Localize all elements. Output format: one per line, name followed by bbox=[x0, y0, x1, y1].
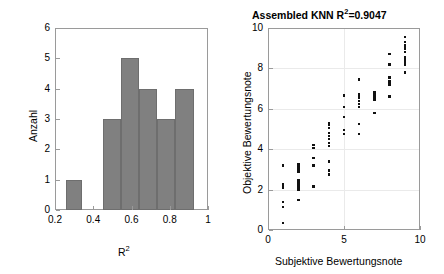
histogram-x-tick bbox=[208, 206, 209, 210]
histogram-x-tick-label: 0.4 bbox=[78, 215, 108, 225]
scatter-point bbox=[312, 164, 314, 166]
scatter-y-tick bbox=[269, 149, 273, 150]
scatter-y-tick-label: 10 bbox=[242, 23, 263, 33]
scatter-point bbox=[358, 93, 360, 95]
scatter-point bbox=[312, 185, 314, 187]
scatter-point bbox=[404, 56, 406, 58]
scatter-point bbox=[358, 100, 360, 102]
scatter-point bbox=[388, 83, 390, 85]
histogram-bar bbox=[121, 58, 139, 210]
histogram-x-tick-label: 0.6 bbox=[117, 215, 147, 225]
histogram-y-tick-label: 1 bbox=[31, 175, 50, 185]
histogram-bar bbox=[103, 119, 121, 210]
matlab-figure: 0.20.40.60.81 0123456 Anzahl R2 Assemble… bbox=[0, 0, 444, 274]
histogram-x-tick-label: 0.2 bbox=[40, 215, 70, 225]
scatter-point bbox=[312, 144, 314, 146]
histogram-bar bbox=[175, 89, 193, 210]
histogram-y-tick bbox=[56, 58, 60, 59]
scatter-y-tick bbox=[269, 230, 273, 231]
scatter-point bbox=[358, 123, 360, 125]
scatter-point bbox=[388, 95, 390, 97]
scatter-x-tick bbox=[344, 226, 345, 230]
histogram-y-tick bbox=[56, 149, 60, 150]
scatter-point bbox=[328, 169, 330, 171]
histogram-y-tick-label: 6 bbox=[31, 23, 50, 33]
histogram-y-axis-label: Anzahl bbox=[28, 110, 39, 142]
histogram-panel: 0.20.40.60.81 0123456 Anzahl R2 bbox=[0, 0, 222, 274]
histogram-x-axis-label-exponent: 2 bbox=[126, 244, 130, 253]
scatter-point bbox=[388, 53, 390, 55]
histogram-y-tick-label: 4 bbox=[31, 84, 50, 94]
scatter-point bbox=[282, 201, 284, 203]
scatter-point bbox=[297, 166, 299, 168]
scatter-point bbox=[404, 51, 406, 53]
histogram-x-axis-label-base: R bbox=[118, 246, 126, 258]
scatter-point bbox=[282, 222, 284, 224]
scatter-point bbox=[328, 127, 330, 129]
scatter-title-prefix: Assembled KNN R bbox=[252, 9, 344, 21]
scatter-x-tick-label: 5 bbox=[329, 235, 359, 245]
scatter-point bbox=[282, 164, 284, 166]
scatter-point bbox=[404, 44, 406, 46]
scatter-point bbox=[328, 173, 330, 175]
scatter-point bbox=[328, 138, 330, 140]
scatter-y-tick bbox=[269, 28, 273, 29]
scatter-panel: Assembled KNN R2=0.9047 0510 0246810 Obj… bbox=[222, 0, 444, 274]
scatter-point bbox=[404, 71, 406, 73]
scatter-x-tick bbox=[420, 226, 421, 230]
histogram-x-axis-label: R2 bbox=[118, 243, 130, 258]
scatter-y-tick bbox=[269, 190, 273, 191]
scatter-point bbox=[388, 63, 390, 65]
scatter-point bbox=[328, 132, 330, 134]
scatter-point bbox=[343, 106, 345, 108]
histogram-bar bbox=[66, 180, 81, 210]
scatter-x-axis-label: Subjektive Bewertungsnote bbox=[275, 256, 402, 267]
scatter-point bbox=[343, 129, 345, 131]
histogram-x-tick bbox=[93, 206, 94, 210]
scatter-point bbox=[388, 80, 390, 82]
scatter-point bbox=[297, 199, 299, 201]
scatter-title: Assembled KNN R2=0.9047 bbox=[252, 6, 387, 21]
histogram-x-tick-label: 1 bbox=[193, 215, 223, 225]
scatter-point bbox=[312, 157, 314, 159]
scatter-x-tick-label: 0 bbox=[253, 235, 283, 245]
histogram-y-tick bbox=[56, 89, 60, 90]
scatter-point bbox=[343, 94, 345, 96]
scatter-y-tick-label: 0 bbox=[242, 225, 263, 235]
scatter-point bbox=[404, 41, 406, 43]
scatter-point bbox=[328, 145, 330, 147]
scatter-point bbox=[328, 122, 330, 124]
histogram-y-tick bbox=[56, 180, 60, 181]
scatter-point bbox=[358, 133, 360, 135]
histogram-y-tick bbox=[56, 210, 60, 211]
scatter-point bbox=[282, 206, 284, 208]
histogram-x-tick bbox=[170, 206, 171, 210]
scatter-x-tick-label: 10 bbox=[405, 235, 435, 245]
scatter-point bbox=[358, 103, 360, 105]
histogram-y-tick bbox=[56, 119, 60, 120]
scatter-point bbox=[343, 133, 345, 135]
scatter-point bbox=[388, 76, 390, 78]
histogram-x-tick-label: 0.8 bbox=[155, 215, 185, 225]
scatter-point bbox=[312, 147, 314, 149]
histogram-y-tick-label: 5 bbox=[31, 53, 50, 63]
scatter-point bbox=[282, 183, 284, 185]
histogram-x-tick bbox=[132, 206, 133, 210]
histogram-bar bbox=[157, 119, 175, 210]
scatter-point bbox=[328, 160, 330, 162]
scatter-y-axis-label: Objektive Bewertungsnote bbox=[242, 71, 253, 194]
scatter-point bbox=[328, 135, 330, 137]
histogram-bar bbox=[139, 89, 157, 210]
scatter-y-tick bbox=[269, 68, 273, 69]
scatter-y-tick bbox=[269, 109, 273, 110]
scatter-point bbox=[297, 179, 299, 181]
scatter-point bbox=[328, 142, 330, 144]
scatter-point bbox=[373, 91, 375, 93]
scatter-point bbox=[358, 96, 360, 98]
histogram-y-tick bbox=[56, 28, 60, 29]
scatter-point bbox=[404, 36, 406, 38]
scatter-point bbox=[297, 182, 299, 184]
scatter-point bbox=[343, 116, 345, 118]
scatter-title-suffix: =0.9047 bbox=[348, 9, 386, 21]
scatter-point bbox=[358, 78, 360, 80]
